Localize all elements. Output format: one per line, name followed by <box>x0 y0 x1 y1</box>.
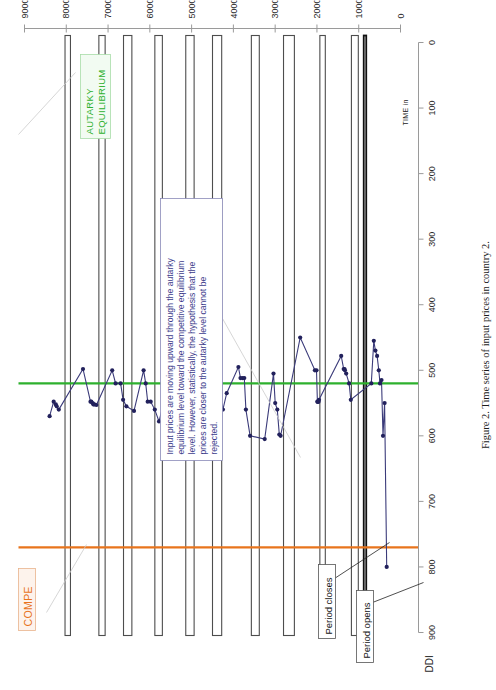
data-point <box>141 368 145 372</box>
data-point <box>339 353 343 357</box>
period-opens-annotation: Period opens <box>356 582 423 662</box>
period-closes-text: Period closes <box>322 577 333 634</box>
competitive-equilibrium-label: COMPE <box>18 544 86 630</box>
period-band <box>351 35 358 635</box>
callout-line-3: level. However, statistically, the hypot… <box>186 261 196 454</box>
time-axis-title: TIME in <box>401 99 408 125</box>
period-opens-text: Period opens <box>360 602 371 658</box>
data-point <box>236 364 240 368</box>
callout-line-5: rejected. <box>208 421 218 454</box>
value-axis-tick-label: 100 <box>426 100 436 115</box>
data-point <box>275 407 279 411</box>
period-band <box>65 35 70 635</box>
data-point <box>375 353 379 357</box>
value-axis-tick-label: 0 <box>426 39 436 44</box>
value-axis-tick-label: 300 <box>426 231 436 246</box>
period-band <box>283 35 294 635</box>
value-axis-tick-label: 900 <box>426 624 436 639</box>
data-point <box>243 407 247 411</box>
callout-line-2: equilibrium level toward the competitive… <box>175 260 185 454</box>
period-band <box>319 35 324 635</box>
figure-caption: Figure 2. Time series of input prices in… <box>467 0 496 690</box>
time-axis: 0100020003000400050006000700080009000 <box>19 0 405 32</box>
period-band <box>123 35 131 635</box>
time-axis-tick-label: 1000 <box>353 0 363 18</box>
period-band <box>251 35 259 635</box>
competitive-label-text: COMPE <box>21 585 33 626</box>
time-axis-tick-label: 4000 <box>228 0 238 18</box>
data-point <box>277 432 281 436</box>
data-point <box>51 399 55 403</box>
data-point <box>262 437 266 441</box>
time-axis-tick-label: 6000 <box>145 0 155 18</box>
data-point <box>238 376 242 380</box>
period-band <box>363 35 366 635</box>
time-axis-tick-label: 7000 <box>103 0 113 18</box>
value-axis-tick-label: 700 <box>426 493 436 508</box>
time-axis-tick-label: 9000 <box>19 0 29 18</box>
data-point <box>145 399 149 403</box>
callout-annotation: Input prices are moving upward through t… <box>160 198 300 460</box>
value-axis-title: DDI <box>423 655 434 672</box>
time-axis-tick-label: 8000 <box>61 0 71 18</box>
autarky-equilibrium-label: AUTARKY EQUILIBRIUM <box>18 54 110 138</box>
data-point <box>371 338 375 342</box>
data-point <box>298 335 302 339</box>
value-axis-tick-label: 600 <box>426 428 436 443</box>
data-point <box>271 371 275 375</box>
time-axis-tick-label: 0 <box>395 13 405 18</box>
value-axis-tick-label: 800 <box>426 559 436 574</box>
data-point <box>273 401 277 405</box>
time-axis-tick-label: 3000 <box>270 0 280 18</box>
time-axis-tick-label: 5000 <box>186 0 196 18</box>
value-axis: 0100200300400500600700800900 <box>418 39 436 639</box>
autarky-label-line-2: EQUILIBRIUM <box>95 69 106 134</box>
time-axis-tick-label: 2000 <box>312 0 322 18</box>
callout-line-1: Input prices are moving upward through t… <box>164 257 174 454</box>
value-axis-tick-label: 400 <box>426 297 436 312</box>
data-point <box>80 366 84 370</box>
data-point <box>380 433 384 437</box>
data-point <box>376 368 380 372</box>
value-axis-tick-label: 200 <box>426 166 436 181</box>
data-point <box>384 564 388 568</box>
autarky-label-line-1: AUTARKY <box>83 87 94 134</box>
data-point <box>110 368 114 372</box>
value-axis-tick-label: 500 <box>426 362 436 377</box>
callout-line-4: prices are closer to the autarky level c… <box>197 276 207 454</box>
